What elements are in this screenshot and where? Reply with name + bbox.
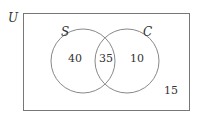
venn-diagram: U S C 40 35 10 15 bbox=[0, 0, 198, 118]
outside-count: 15 bbox=[164, 84, 178, 97]
universe-label: U bbox=[8, 11, 19, 25]
intersection-count: 35 bbox=[99, 52, 113, 65]
set-s-label: S bbox=[61, 25, 69, 39]
s-only-count: 40 bbox=[68, 52, 82, 65]
set-c-label: C bbox=[143, 25, 152, 39]
c-only-count: 10 bbox=[130, 52, 144, 65]
